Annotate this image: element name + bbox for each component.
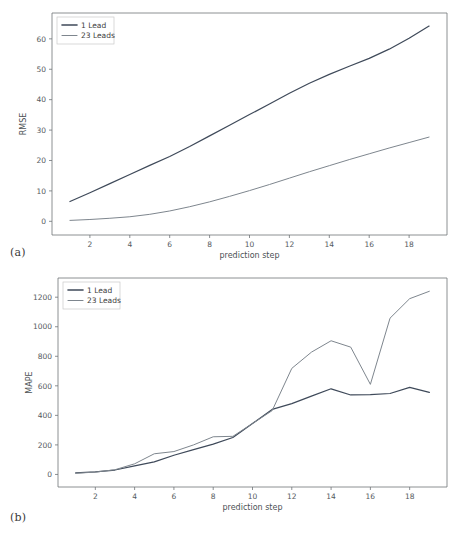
y-tick-label: 60 <box>36 35 46 44</box>
y-tick-label: 800 <box>38 352 53 361</box>
chart-panel-a: 246810121416180102030405060prediction st… <box>0 0 461 270</box>
plot-frame <box>58 278 447 487</box>
x-tick-label: 10 <box>248 492 258 501</box>
figure-container: 246810121416180102030405060prediction st… <box>0 0 461 541</box>
y-tick-label: 0 <box>41 217 46 226</box>
x-tick-label: 6 <box>167 240 172 249</box>
legend-label-23-leads: 23 Leads <box>81 31 115 40</box>
chart-b-svg: 24681012141618020040060080010001200predi… <box>0 265 461 541</box>
x-tick-label: 10 <box>245 240 255 249</box>
x-tick-label: 18 <box>405 492 415 501</box>
x-tick-label: 6 <box>172 492 177 501</box>
y-tick-label: 400 <box>38 411 53 420</box>
x-tick-label: 12 <box>287 492 297 501</box>
chart-panel-b: 24681012141618020040060080010001200predi… <box>0 265 461 541</box>
y-axis-title: MAPE <box>25 371 34 393</box>
series-line-1-lead <box>76 387 430 473</box>
chart-a-svg: 246810121416180102030405060prediction st… <box>0 0 461 270</box>
x-axis-title: prediction step <box>223 503 283 512</box>
series-line-1-lead <box>70 26 429 201</box>
legend-label-23-leads: 23 Leads <box>87 296 121 305</box>
y-tick-label: 40 <box>36 95 46 104</box>
x-tick-label: 18 <box>404 240 414 249</box>
x-tick-label: 16 <box>366 492 376 501</box>
x-tick-label: 4 <box>127 240 132 249</box>
y-tick-label: 30 <box>36 126 46 135</box>
y-tick-label: 0 <box>47 470 52 479</box>
series-line-23-leads <box>76 291 430 473</box>
y-tick-label: 200 <box>38 441 53 450</box>
y-axis-title: RMSE <box>19 113 28 136</box>
y-tick-label: 10 <box>36 187 46 196</box>
y-tick-label: 20 <box>36 156 46 165</box>
x-axis-title: prediction step <box>220 251 280 260</box>
subfigure-caption-a: (a) <box>10 246 26 259</box>
y-tick-label: 1200 <box>33 293 52 302</box>
x-tick-label: 14 <box>326 492 336 501</box>
x-tick-label: 2 <box>93 492 98 501</box>
subfigure-caption-b: (b) <box>10 511 26 524</box>
series-line-23-leads <box>70 137 429 220</box>
y-tick-label: 50 <box>36 65 46 74</box>
x-tick-label: 4 <box>132 492 137 501</box>
plot-frame <box>52 13 447 235</box>
y-tick-label: 1000 <box>33 322 52 331</box>
legend-label-1-lead: 1 Lead <box>81 21 106 30</box>
y-tick-label: 600 <box>38 382 53 391</box>
legend-label-1-lead: 1 Lead <box>87 286 112 295</box>
x-tick-label: 8 <box>207 240 212 249</box>
x-tick-label: 12 <box>285 240 295 249</box>
x-tick-label: 14 <box>325 240 335 249</box>
x-tick-label: 8 <box>211 492 216 501</box>
x-tick-label: 16 <box>364 240 374 249</box>
x-tick-label: 2 <box>88 240 93 249</box>
